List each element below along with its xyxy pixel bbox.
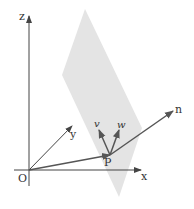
y-axis-label: y	[69, 128, 77, 141]
vector-v-label: v	[94, 118, 100, 129]
z-axis-label: z	[19, 10, 25, 23]
plane-diagram: z O x y P v w n	[0, 0, 194, 209]
origin-label: O	[18, 172, 27, 185]
point-P-label: P	[104, 156, 112, 169]
plane	[62, 9, 142, 197]
vector-w-label: w	[117, 119, 126, 130]
x-axis-label: x	[141, 170, 148, 183]
vector-n-label: n	[175, 103, 182, 116]
